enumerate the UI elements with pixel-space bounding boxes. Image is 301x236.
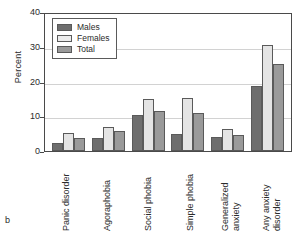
legend-item: Females xyxy=(57,33,110,44)
bar-females xyxy=(63,133,74,151)
y-tick-label: 30 xyxy=(18,43,40,52)
legend-item: Males xyxy=(57,22,110,33)
bar-group xyxy=(211,14,244,151)
legend-swatch-males xyxy=(57,24,72,31)
bar-females xyxy=(103,127,114,151)
x-category-label-line1: Generalized xyxy=(220,151,230,231)
legend-label: Males xyxy=(77,23,100,32)
legend-swatch-total xyxy=(57,46,72,53)
x-category-label-line2: disorder xyxy=(272,198,282,231)
legend: MalesFemalesTotal xyxy=(52,18,117,59)
bar-females xyxy=(222,129,233,151)
x-category-label: Any anxietydisorder xyxy=(261,151,273,231)
bar-group xyxy=(251,14,284,151)
x-category-label: Generalizedanxiety xyxy=(220,151,232,231)
bar-total xyxy=(154,111,165,151)
x-category-label-line1: Simple phobia xyxy=(185,151,195,231)
bar-total xyxy=(233,135,244,151)
bar-total xyxy=(74,138,85,151)
panel-letter: b xyxy=(5,215,10,225)
bar-total xyxy=(114,131,125,151)
bar-males xyxy=(52,143,63,151)
x-category-label: Social phobia xyxy=(143,151,155,231)
x-category-label: Panic disorder xyxy=(61,151,73,231)
legend-item: Total xyxy=(57,44,110,55)
y-tick-label: 0 xyxy=(18,147,40,156)
bar-total xyxy=(273,64,284,151)
y-tick-label: 40 xyxy=(18,8,40,17)
x-category-label: Agoraphobia xyxy=(102,151,114,231)
legend-swatch-females xyxy=(57,35,72,42)
x-category-label-line2: anxiety xyxy=(231,202,241,231)
y-tick-label: 10 xyxy=(18,112,40,121)
bar-group xyxy=(171,14,204,151)
bar-males xyxy=(211,137,222,151)
bar-group xyxy=(132,14,165,151)
x-category-label-line1: Any anxiety xyxy=(261,151,271,231)
y-tick-label: 20 xyxy=(18,78,40,87)
figure-panel-b: Percent 010203040 MalesFemalesTotal Pani… xyxy=(0,0,301,236)
legend-label: Females xyxy=(77,34,110,43)
bar-males xyxy=(92,138,103,151)
x-category-label-line1: Social phobia xyxy=(143,151,153,231)
bar-females xyxy=(262,45,273,151)
bar-males xyxy=(171,134,182,151)
bar-males xyxy=(251,86,262,151)
legend-label: Total xyxy=(77,45,95,54)
bar-total xyxy=(193,113,204,151)
bar-females xyxy=(182,98,193,152)
y-axis-tick-labels: 010203040 xyxy=(16,0,40,160)
x-category-label: Simple phobia xyxy=(185,151,197,231)
bar-males xyxy=(132,115,143,151)
x-category-label-line1: Panic disorder xyxy=(61,151,71,231)
x-category-label-line1: Agoraphobia xyxy=(102,151,112,231)
bar-females xyxy=(143,99,154,151)
x-axis-category-labels: Panic disorderAgoraphobiaSocial phobiaSi… xyxy=(44,153,292,233)
